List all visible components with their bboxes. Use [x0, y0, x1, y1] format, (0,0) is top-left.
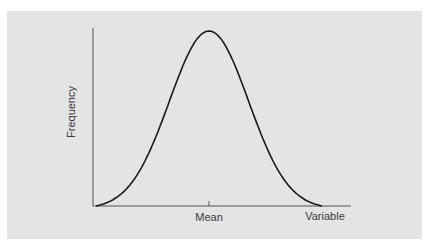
distribution-curve — [96, 31, 322, 206]
mean-tick-label: Mean — [195, 211, 223, 223]
y-axis-label: Frequency — [65, 86, 77, 138]
x-axis-label: Variable — [305, 210, 345, 222]
